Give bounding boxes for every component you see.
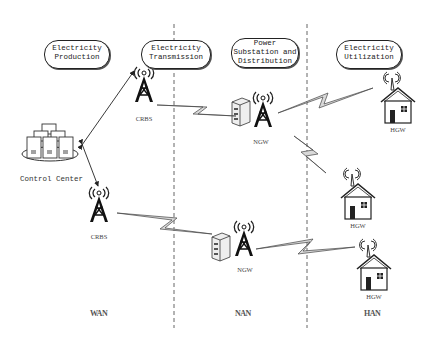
domain-electricity-utilization: Electricity Utilization [336, 40, 402, 69]
zone-label-han: HAN [364, 309, 380, 318]
ngw-top-tower-icon [253, 92, 272, 127]
domain-label-line: Power [232, 39, 298, 48]
hgw-1-label: HGW [388, 126, 408, 133]
crbs-top-label: CRBS [134, 115, 154, 122]
ngw-bottom-server-icon [212, 233, 230, 261]
zone-label-wan: WAN [90, 309, 107, 318]
domain-power-substation-distribution: Power Substation and Distribution [231, 38, 299, 68]
domain-label-line: Utilization [337, 53, 401, 62]
hgw-2-house-icon [341, 168, 375, 219]
zone-label-nan: NAN [235, 309, 251, 318]
ngw-top-server-icon [232, 98, 250, 126]
crbs-bottom-label: CRBS [89, 233, 109, 240]
domain-label-line: Transmission [142, 53, 210, 62]
domain-label-line: Distribution [232, 57, 298, 66]
hgw-1-house-icon [381, 72, 415, 123]
wireless-link-crbs-ngw-top [157, 105, 236, 116]
control-center-icon [22, 124, 78, 161]
crbs-bottom-tower-icon [89, 187, 108, 222]
ngw-top-label: NGW [251, 138, 271, 145]
domain-label-line: Electricity [337, 44, 401, 53]
wireless-link-ngw-hgw-1 [278, 88, 373, 113]
domain-electricity-transmission: Electricity Transmission [141, 40, 211, 69]
crbs-top-tower-icon [134, 67, 153, 102]
domain-label-line: Production [45, 53, 109, 62]
hgw-2-label: HGW [348, 222, 368, 229]
domain-label-line: Electricity [45, 44, 109, 53]
domain-label-line: Electricity [142, 44, 210, 53]
ngw-bottom-label: NGW [235, 266, 255, 273]
wireless-link-ngw-hgw-2 [294, 136, 326, 173]
ngw-bottom-tower-icon [234, 221, 253, 256]
hgw-3-house-icon [357, 239, 391, 290]
wireless-link-crbs-ngw-bottom [117, 213, 212, 234]
domain-electricity-production: Electricity Production [44, 40, 110, 69]
link-cc-crbs-bottom [82, 144, 98, 186]
hgw-3-label: HGW [364, 293, 384, 300]
link-cc-crbs-top [82, 71, 134, 145]
control-center-label: Control Center [20, 175, 83, 183]
domain-label-line: Substation and [232, 48, 298, 57]
wireless-link-ngw-hgw-3 [256, 239, 355, 254]
